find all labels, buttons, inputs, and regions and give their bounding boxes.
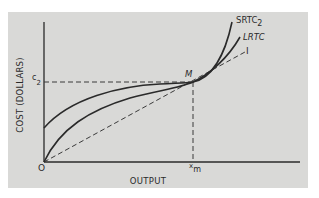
lrtc-curve <box>44 37 240 162</box>
srtc2-label: SRTC2 <box>236 15 262 28</box>
xm-tick-label: xm <box>189 162 201 174</box>
origin-label: O <box>38 163 45 173</box>
y-axis-label: COST (DOLLARS) <box>15 57 25 132</box>
c2-tick-label: c2 <box>32 73 41 87</box>
x-axis-label: OUTPUT <box>130 176 166 186</box>
lrtc-label: LRTC <box>243 32 265 42</box>
point-m-label: M <box>185 69 193 79</box>
ray-i-label: I <box>246 46 249 56</box>
cost-chart: O c2 xm M SRTC2 LRTC I <box>0 0 319 198</box>
